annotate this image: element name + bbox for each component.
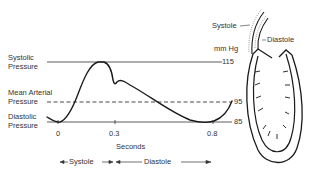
heart-inner-wall (253, 54, 294, 152)
pressure-waveform (47, 62, 232, 122)
phase-systole-label: Systole (69, 158, 94, 167)
heart-diastole-label: Diastole (267, 36, 294, 45)
pressure-diagram (0, 0, 310, 174)
mean-arterial-label: Mean Arterial Pressure (8, 89, 52, 106)
systolic-value: 115 (222, 58, 234, 67)
phase-diastole-label: Diastole (144, 158, 171, 167)
heart-valve-left (253, 49, 272, 58)
systolic-label: Systolic Pressure (8, 54, 38, 71)
mean-label-line2: Pressure (8, 98, 52, 107)
tick-label-0.8: 0.8 (207, 130, 217, 139)
tick-label-0: 0 (56, 130, 60, 139)
wall-motion-marks (255, 71, 290, 139)
unit-label: mm Hg (214, 45, 238, 54)
systole-leader (240, 25, 250, 26)
heart-systole-label: Systole (212, 22, 237, 31)
aorta-outer-dotted (249, 9, 262, 52)
systolic-label-line2: Pressure (8, 63, 38, 72)
x-axis-title: Seconds (116, 143, 145, 152)
mean-value: 95 (234, 98, 242, 107)
diastolic-label: Diastolic Pressure (8, 113, 38, 130)
heart-valve-right (279, 50, 292, 57)
diastolic-label-line2: Pressure (8, 122, 38, 131)
diastolic-value: 85 (234, 118, 242, 127)
tick-label-0.3: 0.3 (109, 130, 119, 139)
